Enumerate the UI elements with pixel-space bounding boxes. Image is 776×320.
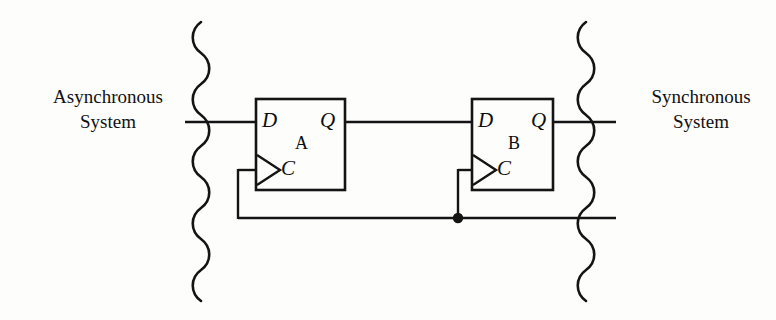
flipflop-b-q-label: Q — [531, 108, 546, 133]
synchronous-system-label: Synchronous System — [626, 84, 776, 134]
synchronous-system-label-line1: Synchronous — [626, 84, 776, 109]
flipflop-b-clock-triangle-icon — [473, 155, 496, 185]
right-boundary-wavy-line — [578, 22, 595, 301]
flipflop-a-name-label: A — [295, 133, 308, 154]
clock-junction-dot — [453, 213, 463, 223]
asynchronous-system-label: Asynchronous System — [28, 84, 188, 134]
flipflop-a-c-label: C — [281, 156, 295, 181]
asynchronous-system-label-line2: System — [28, 109, 188, 134]
flipflop-b-name-label: B — [508, 133, 520, 154]
asynchronous-system-label-line1: Asynchronous — [28, 84, 188, 109]
flipflop-a-d-label: D — [262, 108, 277, 133]
flipflop-a-q-label: Q — [320, 108, 335, 133]
circuit-diagram — [0, 0, 776, 320]
flipflop-b-c-label: C — [497, 156, 511, 181]
flipflop-b-d-label: D — [478, 108, 493, 133]
synchronous-system-label-line2: System — [626, 109, 776, 134]
left-boundary-wavy-line — [193, 22, 210, 301]
diagram-canvas: Asynchronous System Synchronous System D… — [0, 0, 776, 320]
flipflop-a-clock-triangle-icon — [257, 155, 280, 185]
